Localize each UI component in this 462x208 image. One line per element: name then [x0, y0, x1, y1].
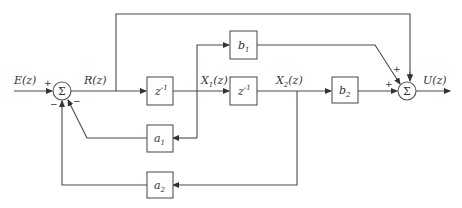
sum1-minus-sign-a1: −	[73, 96, 81, 106]
summing-junction-1: Σ	[53, 82, 71, 100]
sum2-plus-sign-b2: +	[385, 79, 393, 89]
sum1-minus-sign-a2: −	[50, 99, 58, 109]
delay-block-2: z-1	[230, 77, 257, 105]
delay-block-1: z-1	[147, 77, 173, 105]
sum1-plus-sign: +	[44, 78, 52, 88]
sum2-plus-sign-b1: +	[393, 64, 401, 74]
x1-label: X1(z)	[200, 74, 228, 89]
sum2-plus-sign-direct: +	[406, 69, 414, 79]
gain-block-a1: a1	[147, 125, 173, 152]
svg-text:Σ: Σ	[58, 85, 66, 98]
summing-junction-2: Σ	[398, 82, 416, 100]
block-diagram: E(z) + Σ − − R(z) z-1 X1(z) b1 z-1 X2(z)…	[0, 0, 462, 208]
svg-text:Σ: Σ	[403, 85, 411, 98]
gain-block-b1: b1	[230, 31, 257, 59]
x2-label: X2(z)	[275, 74, 303, 89]
gain-block-a2: a2	[147, 172, 173, 198]
output-label: U(z)	[423, 74, 447, 87]
gain-block-b2: b2	[332, 77, 358, 103]
r-label: R(z)	[83, 74, 107, 87]
input-label: E(z)	[13, 74, 36, 87]
